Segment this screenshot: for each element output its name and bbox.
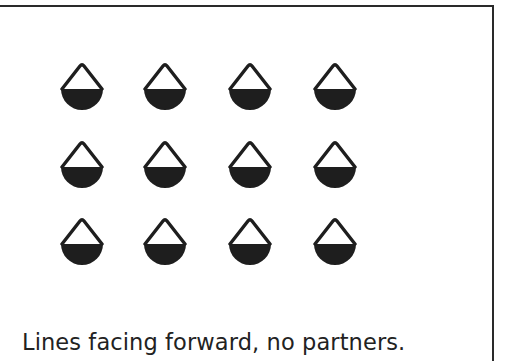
dancer-icon: [228, 63, 272, 113]
dancer-icon: [228, 218, 272, 268]
dancer-icon: [313, 141, 357, 191]
dancer-formation-grid: [0, 0, 509, 300]
dancer-icon: [228, 141, 272, 191]
dancer-icon: [60, 218, 104, 268]
dancer-icon: [60, 63, 104, 113]
dancer-icon: [313, 63, 357, 113]
figure-caption: Lines facing forward, no partners.: [22, 329, 405, 355]
dancer-icon: [143, 141, 187, 191]
dancer-icon: [143, 218, 187, 268]
dancer-icon: [143, 63, 187, 113]
dancer-icon: [313, 218, 357, 268]
dancer-icon: [60, 141, 104, 191]
